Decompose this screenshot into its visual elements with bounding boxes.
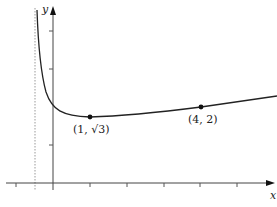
y-axis-ticks	[49, 31, 53, 145]
x-axis-arrow-icon	[266, 180, 275, 186]
point-4-2	[199, 105, 204, 110]
point-label-2: (4, 2)	[188, 114, 218, 125]
y-axis-label: y	[42, 4, 48, 15]
x-axis-label: x	[270, 190, 276, 201]
point-label-1: (1, √3)	[73, 124, 110, 135]
graph-figure	[0, 0, 277, 207]
y-axis-arrow-icon	[50, 6, 56, 15]
function-curve	[37, 10, 277, 117]
point-1-sqrt3	[88, 115, 93, 120]
x-axis-ticks	[16, 183, 237, 187]
